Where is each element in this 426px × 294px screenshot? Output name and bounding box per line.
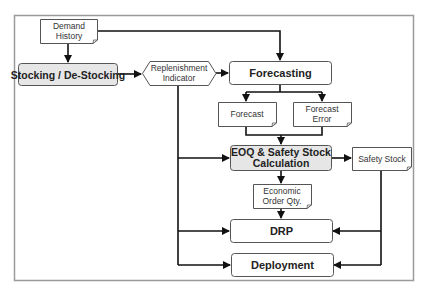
node-label: Stocking / De-Stocking [11,69,125,81]
node-label: Economic [263,186,301,196]
node-label: Demand [53,21,85,31]
node-label: DRP [270,225,293,237]
node-label: Indicator [163,73,196,83]
node-safety-stock[interactable]: Safety Stock [353,148,412,171]
node-label: History [56,31,83,41]
node-label: Safety Stock [358,154,406,164]
node-replenishment-indicator[interactable]: Replenishment Indicator [143,62,217,86]
node-label: Forecast [305,104,339,114]
node-economic-order-qty[interactable]: Economic Order Qty. [254,185,312,209]
flow-diagram: Demand History Stocking / De-Stocking Re… [0,0,426,294]
node-label: Forecast [230,109,264,119]
node-label: Forecasting [249,67,311,79]
node-label: Error [313,114,332,124]
node-forecast-error[interactable]: Forecast Error [294,103,352,127]
node-eoq-safety-stock-calculation[interactable]: EOQ & Safety Stock Calculation [231,146,332,171]
node-label: Order Qty. [262,196,301,206]
node-label: Deployment [251,259,314,271]
node-label: Calculation [253,157,310,169]
node-forecast[interactable]: Forecast [219,103,277,127]
node-drp[interactable]: DRP [231,220,333,243]
node-label: Replenishment [151,63,208,73]
node-stocking[interactable]: Stocking / De-Stocking [11,64,125,86]
node-deployment[interactable]: Deployment [232,254,334,277]
node-demand-history[interactable]: Demand History [41,20,98,44]
node-forecasting[interactable]: Forecasting [230,62,332,85]
